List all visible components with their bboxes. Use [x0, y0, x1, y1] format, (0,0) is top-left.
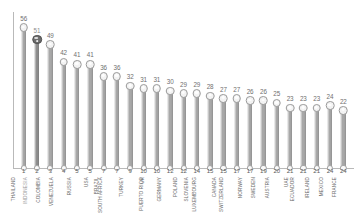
bar-venezuela[interactable]: 42 [57, 8, 70, 168]
bar-marker [166, 87, 175, 96]
category-label: PUERTO RICO [140, 177, 145, 211]
value-label: 23 [313, 96, 320, 102]
bar-marker [299, 104, 308, 113]
bar-stem [21, 28, 25, 168]
category-label: THAILAND [12, 177, 17, 201]
plot-area: 5651494241413636323131302929282727262625… [13, 8, 354, 168]
bar-marker [59, 58, 68, 67]
bar-turkey[interactable]: 32 [124, 8, 137, 168]
value-label: 32 [127, 74, 134, 80]
bar-thailand[interactable]: 56 [17, 8, 30, 168]
rank-label: 24 [340, 168, 347, 174]
bar-marker [326, 101, 335, 110]
bar-marker [206, 92, 215, 101]
value-label: 27 [233, 87, 240, 93]
category-label: COLOMBIA [37, 177, 42, 203]
bar-marker [139, 84, 148, 93]
bar-stem [115, 76, 119, 168]
bar-south-africa[interactable]: 36 [110, 8, 123, 168]
bar-stem [101, 76, 105, 168]
x-tick-france[interactable]: 24FRANCE [337, 168, 350, 220]
rank-label: 24 [327, 168, 334, 174]
bar-france[interactable]: 22 [337, 8, 350, 168]
category-label: AUSTRIA [266, 177, 271, 198]
bar-stem [328, 106, 332, 168]
bar-stem [88, 64, 92, 168]
bar-marker [126, 82, 135, 91]
bar-stem [275, 103, 279, 168]
bar-switzerland[interactable]: 27 [230, 8, 243, 168]
bar-norway[interactable]: 26 [244, 8, 257, 168]
rank-label: 15 [207, 168, 214, 174]
bar-marker [32, 35, 42, 45]
rank-label: 10 [140, 168, 147, 174]
bar-germany[interactable]: 30 [164, 8, 177, 168]
bar-stem [155, 89, 159, 168]
bar-sweden[interactable]: 26 [257, 8, 270, 168]
value-label: 31 [140, 77, 147, 83]
category-label: USA [85, 177, 90, 187]
bar-russia[interactable]: 41 [70, 8, 83, 168]
value-label: 29 [193, 82, 200, 88]
bar-marker [193, 89, 202, 98]
bar-marker [219, 94, 228, 103]
bar-stem [168, 91, 172, 168]
x-tick-austria[interactable]: 20AUSTRIA [270, 168, 283, 220]
bar-stem [221, 98, 225, 168]
rank-label: 21 [313, 168, 320, 174]
bar-slovenia[interactable]: 29 [190, 8, 203, 168]
rank-label: 19 [260, 168, 267, 174]
bar-marker [73, 60, 82, 69]
category-label: CANADA [213, 177, 218, 197]
bar-puerto-rico[interactable]: 31 [150, 8, 163, 168]
value-label: 42 [60, 50, 67, 56]
category-label: POLAND [174, 177, 179, 197]
value-label: 36 [113, 65, 120, 71]
bar-stem [48, 45, 52, 168]
category-label: ECUADOR [291, 177, 296, 201]
bar-ecuador[interactable]: 23 [297, 8, 310, 168]
rank-label: 2 [35, 168, 38, 174]
category-label: VENEZUELA [49, 177, 54, 206]
bar-marker [19, 23, 28, 32]
bar-brazil[interactable]: 36 [97, 8, 110, 168]
value-label: 23 [287, 96, 294, 102]
bar-stem [248, 101, 252, 168]
category-label: MEXICO [320, 177, 325, 196]
category-label: SWEDEN [253, 177, 258, 198]
bar-austria[interactable]: 25 [270, 8, 283, 168]
bar-indonesia[interactable]: 51 [30, 8, 43, 168]
bar-ireland[interactable]: 23 [310, 8, 323, 168]
bar-uae[interactable]: 23 [284, 8, 297, 168]
bar-colombia[interactable]: 49 [44, 8, 57, 168]
rank-label: 9 [129, 168, 132, 174]
x-tick-turkey[interactable]: 9TURKEY [124, 168, 137, 220]
bar-uk[interactable]: 31 [137, 8, 150, 168]
category-label: INDONESIA [24, 177, 29, 204]
category-label: SOUTH AFRICA [99, 177, 104, 213]
value-label: 41 [74, 52, 81, 58]
bar-poland[interactable]: 29 [177, 8, 190, 168]
rank-label: 5 [75, 168, 78, 174]
category-label: SWITZERLAND [219, 177, 224, 212]
bar-luxembourg[interactable]: 28 [204, 8, 217, 168]
bar-marker [179, 89, 188, 98]
category-label: FRANCE [333, 177, 338, 197]
value-label: 36 [100, 65, 107, 71]
bar-stem [235, 98, 239, 168]
x-tick-russia[interactable]: 5RUSSIA [70, 168, 83, 220]
bar-marker [339, 106, 348, 115]
value-label: 22 [340, 99, 347, 105]
bar-stem [301, 108, 305, 168]
x-axis-labels: 1THAILAND2INDONESIA3COLOMBIA4VENEZUELA5R… [13, 168, 354, 220]
bar-stem [341, 110, 345, 168]
bar-usa[interactable]: 41 [84, 8, 97, 168]
marker-inner-dot [36, 40, 39, 42]
category-label: RUSSIA [68, 177, 73, 195]
rank-label: 10 [154, 168, 161, 174]
value-label: 49 [47, 33, 54, 39]
bar-stem [128, 86, 132, 168]
rank-label: 1 [22, 168, 25, 174]
bar-canada[interactable]: 27 [217, 8, 230, 168]
bar-mexico[interactable]: 24 [324, 8, 337, 168]
